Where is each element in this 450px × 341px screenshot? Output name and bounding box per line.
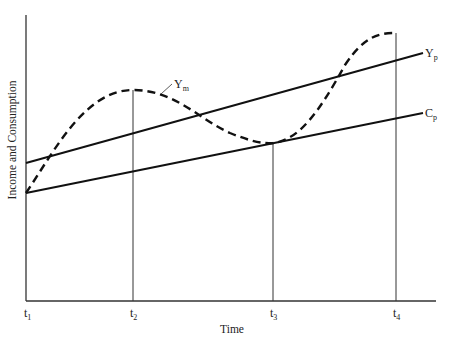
y-axis-title: Income and Consumption (6, 80, 19, 199)
income-consumption-chart: Ym Yp Cp t1 t2 t3 t4 Time Income and Con… (0, 0, 450, 341)
x-tick-t4: t4 (393, 306, 400, 322)
series-line-cp (26, 113, 423, 193)
ym-label-leader (161, 84, 172, 94)
x-tick-t3: t3 (270, 306, 277, 322)
series-curve-ym (26, 33, 396, 193)
series-label-ym: Ym (174, 77, 190, 93)
series-label-yp: Yp (425, 46, 438, 62)
x-tick-t1: t1 (24, 306, 31, 322)
series-label-cp: Cp (425, 106, 437, 122)
x-axis-title: Time (220, 323, 244, 335)
x-tick-t2: t2 (130, 306, 137, 322)
series-line-yp (26, 53, 423, 163)
